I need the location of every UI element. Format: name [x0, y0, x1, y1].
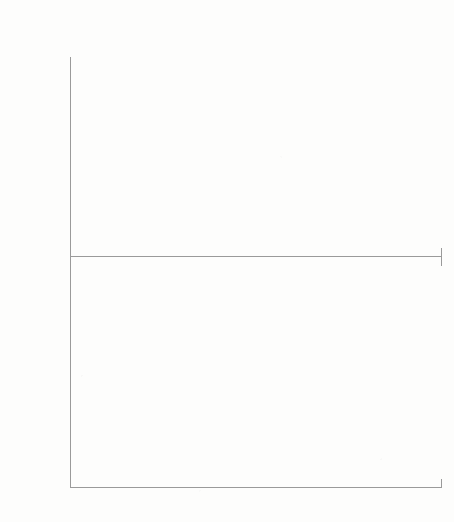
figure-canvas: [0, 0, 454, 522]
bottom-panel-x-axis-spine: [70, 487, 442, 488]
bottom-panel-right-spine-bottom: [441, 479, 442, 488]
bottom-panel-right-spine-top: [441, 257, 442, 266]
bottom-mean-panel: [0, 0, 454, 522]
bottom-panel-y-axis-spine: [70, 257, 71, 488]
